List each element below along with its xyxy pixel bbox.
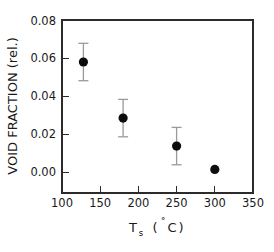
x-tick-label: 300 <box>204 196 226 210</box>
x-axis-title: T s ( ° C ) <box>128 216 184 238</box>
x-axis-subscript: s <box>139 228 144 238</box>
data-point <box>79 57 88 66</box>
x-axis-units-letter: C <box>167 220 176 235</box>
x-tick-label: 100 <box>51 196 73 210</box>
figure-background <box>0 0 274 252</box>
x-tick-label: 350 <box>242 196 264 210</box>
y-tick-label: 0.04 <box>30 89 56 103</box>
y-axis-title: VOID FRACTION (rel.) <box>5 37 20 174</box>
chart-figure: 100 150 200 250 300 350 0.00 0.02 0.04 0… <box>0 0 274 252</box>
data-point <box>119 114 128 123</box>
data-point <box>210 165 219 174</box>
y-tick-label: 0.02 <box>30 127 56 141</box>
y-tick-label: 0.08 <box>30 14 56 28</box>
x-tick-label: 250 <box>166 196 188 210</box>
data-point <box>172 142 181 151</box>
x-tick-label: 150 <box>89 196 111 210</box>
x-axis-units-close: ) <box>178 220 183 235</box>
x-tick-label: 200 <box>127 196 149 210</box>
x-axis-units-open: ( <box>152 220 157 235</box>
y-tick-label: 0.06 <box>30 51 56 65</box>
x-axis-symbol: T <box>128 220 137 235</box>
void-fraction-scatter-plot: 100 150 200 250 300 350 0.00 0.02 0.04 0… <box>0 0 274 252</box>
y-tick-label: 0.00 <box>30 165 56 179</box>
degree-symbol-icon: ° <box>161 216 165 226</box>
